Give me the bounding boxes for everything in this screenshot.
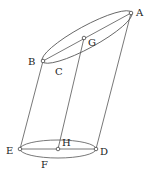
point-b xyxy=(41,59,45,63)
label-c: C xyxy=(55,66,63,77)
segment-ba xyxy=(43,13,131,61)
cylinder-diagram: A B C G E H D F xyxy=(0,0,148,173)
label-b: B xyxy=(28,56,35,67)
segment-be xyxy=(20,61,43,149)
label-a: A xyxy=(135,7,144,18)
diagram-canvas: A B C G E H D F xyxy=(0,0,148,173)
point-h xyxy=(56,147,60,151)
point-d xyxy=(94,147,98,151)
label-d: D xyxy=(100,146,108,157)
label-f: F xyxy=(41,159,48,170)
label-h: H xyxy=(62,137,71,148)
point-e xyxy=(18,147,22,151)
point-a xyxy=(129,11,133,15)
label-g: G xyxy=(88,37,96,48)
point-g xyxy=(82,36,86,40)
label-e: E xyxy=(6,145,13,156)
segment-gh xyxy=(58,38,84,149)
